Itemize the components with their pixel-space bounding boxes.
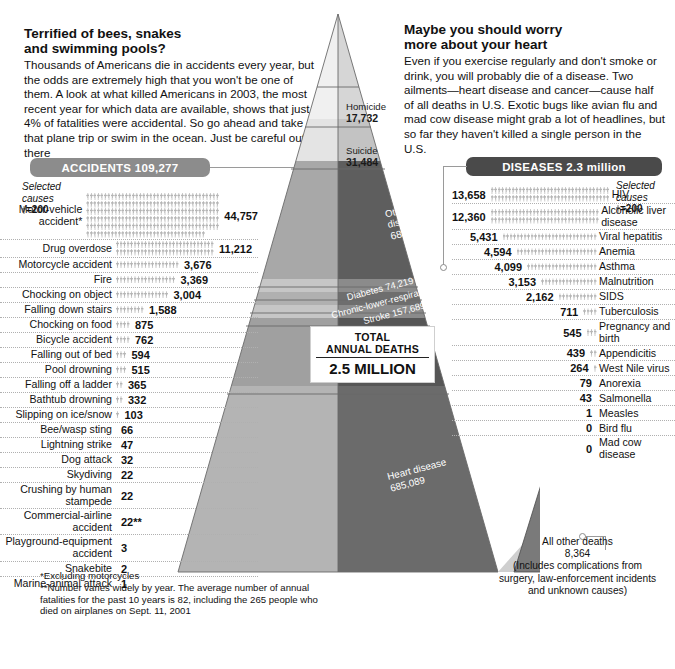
person-icon [146,216,149,223]
person-icon [198,231,201,238]
cause-value: 47 [116,439,133,451]
person-icon [130,249,133,256]
person-icon [86,208,89,215]
cause-value: 439 [567,347,590,359]
person-icon [533,195,536,202]
person-icon [590,350,593,357]
person-icon [580,248,583,255]
person-icon [554,187,557,194]
person-icon [93,223,96,230]
person-icon [188,201,191,208]
person-icon [170,201,173,208]
person-icon [100,208,103,215]
person-icon [183,249,186,256]
person-icon [130,276,133,283]
picto-line [491,209,600,216]
person-icon [93,231,96,238]
person-icon [121,201,124,208]
person-icon [111,201,114,208]
person-icon [100,231,103,238]
person-icon [543,217,546,224]
person-icon [127,241,130,248]
person-icon [188,223,191,230]
person-icon [494,209,497,216]
list-item: 439Appendicitis [452,346,675,361]
list-item: 79Anorexia [452,376,675,391]
person-icon [531,263,534,270]
picto-bar [116,261,179,269]
person-icon [165,261,168,268]
person-icon [596,195,599,202]
person-icon [139,223,142,230]
person-icon [590,263,593,270]
person-icon [599,195,602,202]
person-icon [184,223,187,230]
person-icon [531,248,534,255]
person-icon [156,201,159,208]
picto-bar [116,321,130,329]
person-icon [543,195,546,202]
person-icon [125,231,128,238]
cause-value: 0 [586,422,597,434]
person-icon [188,216,191,223]
cause-value: 32 [116,454,133,466]
person-icon [163,208,166,215]
picto-line [116,336,130,343]
person-icon [554,209,557,216]
person-icon [587,278,590,285]
person-icon [148,249,151,256]
person-icon [548,263,551,270]
person-icon [141,291,144,298]
list-item: Bicycle accident762 [0,333,258,348]
person-icon [561,217,564,224]
person-icon [576,293,579,300]
person-icon [107,223,110,230]
picto-bar [587,329,598,337]
person-icon [128,231,131,238]
cause-value: 4,594 [484,246,517,258]
person-icon [209,208,212,215]
picto-bar [491,187,610,202]
person-icon [114,223,117,230]
list-item: 4,099Asthma [452,260,675,275]
person-icon [177,201,180,208]
person-icon [181,193,184,200]
person-icon [580,263,583,270]
person-icon [554,195,557,202]
person-icon [149,208,152,215]
person-icon [216,193,219,200]
person-icon [167,231,170,238]
cause-value: 594 [127,349,150,361]
person-icon [155,249,158,256]
person-icon [587,329,590,336]
person-icon [181,231,184,238]
person-icon [137,241,140,248]
picto-bar [116,291,169,299]
picto-bar [86,193,219,238]
person-icon [552,248,555,255]
total-line3: 2.5 MILLION [316,357,429,377]
picto-bar [116,366,127,374]
person-icon [134,291,137,298]
person-icon [512,209,515,216]
tier-label-suicide: Suicide [346,145,377,156]
person-icon [587,248,590,255]
person-icon [174,193,177,200]
picto-line [590,350,597,357]
person-icon [529,195,532,202]
person-icon [519,209,522,216]
person-icon [589,217,592,224]
person-icon [582,195,585,202]
person-icon [137,291,140,298]
person-icon [583,293,586,300]
list-item: Crushing by human stampede22 [0,483,258,509]
picto-bar [559,293,598,301]
person-icon [592,217,595,224]
person-icon [181,208,184,215]
picto-bar [116,276,176,284]
person-icon [184,231,187,238]
person-icon [156,193,159,200]
person-icon [209,223,212,230]
person-icon [505,195,508,202]
cause-label: Salmonella [597,393,675,405]
